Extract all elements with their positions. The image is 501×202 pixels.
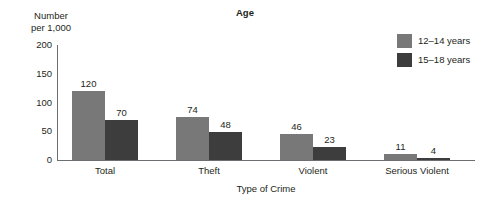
category-label-total: Total [95, 165, 115, 176]
chart-title: Age [190, 7, 300, 18]
bar-serious-violent-15-18: 4 [417, 158, 450, 160]
y-tick-150: 150 [12, 69, 52, 79]
legend-swatch-15-18 [397, 53, 412, 67]
chart-legend: 12–14 years 15–18 years [397, 31, 470, 69]
bar-theft-15-18: 48 [209, 132, 242, 160]
bar-value-theft-15-18: 48 [220, 120, 231, 130]
legend-item-15-18: 15–18 years [397, 50, 470, 69]
category-label-theft: Theft [198, 165, 220, 176]
bar-serious-violent-12-14: 11 [384, 154, 417, 160]
bar-value-serious-violent-12-14: 11 [396, 142, 406, 152]
legend-swatch-12-14 [397, 34, 412, 48]
bar-value-violent-12-14: 46 [291, 122, 302, 132]
y-axis-label: Number per 1,000 [14, 10, 88, 34]
legend-label-15-18: 15–18 years [418, 55, 470, 65]
bar-value-serious-violent-15-18: 4 [431, 146, 436, 156]
x-axis-line [57, 160, 475, 161]
bar-theft-12-14: 74 [176, 117, 209, 160]
bar-value-violent-15-18: 23 [324, 135, 335, 145]
y-axis-label-line2: per 1,000 [14, 22, 88, 34]
bar-total-15-18: 70 [105, 120, 138, 160]
legend-item-12-14: 12–14 years [397, 31, 470, 50]
category-label-serious-violent: Serious Violent [385, 165, 449, 176]
bar-value-theft-12-14: 74 [187, 105, 198, 115]
legend-label-12-14: 12–14 years [418, 36, 470, 46]
y-tick-200: 200 [12, 40, 52, 50]
y-tick-50: 50 [12, 127, 52, 137]
x-axis-label: Type of Crime [57, 183, 475, 194]
y-tick-0: 0 [12, 155, 52, 165]
bar-value-total-15-18: 70 [116, 108, 127, 118]
y-axis-label-line1: Number [14, 10, 88, 22]
category-label-violent: Violent [299, 165, 328, 176]
bar-total-12-14: 120 [72, 91, 105, 160]
y-tick-100: 100 [12, 98, 52, 108]
y-axis-line [57, 45, 58, 160]
chart-figure: Age Number per 1,000 0 50 100 150 200 12… [0, 0, 501, 202]
bar-value-total-12-14: 120 [81, 79, 97, 89]
bar-violent-12-14: 46 [280, 134, 313, 160]
bar-violent-15-18: 23 [313, 147, 346, 160]
